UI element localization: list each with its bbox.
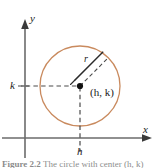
center-point-marker	[77, 83, 83, 89]
figure-caption-label: Figure 2.2	[2, 160, 41, 168]
tick-label-k: k	[10, 80, 15, 91]
figure-circle-center-h-k: y x k h r (h, k) Figure 2.2 The circle w…	[0, 0, 159, 168]
figure-canvas	[0, 0, 159, 168]
y-axis	[21, 19, 29, 158]
y-axis-label: y	[30, 13, 35, 24]
x-axis-arrow-icon	[142, 134, 152, 142]
figure-caption: Figure 2.2 The circle with center (h, k)…	[2, 160, 157, 168]
radius-label-r: r	[84, 54, 88, 64]
y-axis-arrow-icon	[21, 19, 29, 29]
center-point-label: (h, k)	[90, 87, 114, 98]
tick-label-h: h	[77, 146, 83, 157]
x-axis-label: x	[143, 124, 148, 135]
